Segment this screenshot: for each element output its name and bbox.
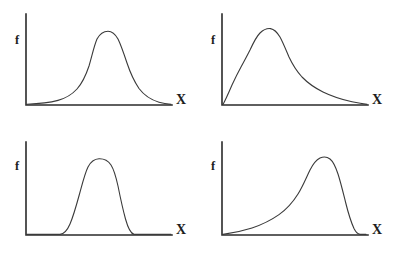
panel-bottom-right: f X [211,142,382,237]
curve-bottom-right-left-skewed [223,157,366,234]
y-axis-label-bottom-left: f [15,159,20,173]
curve-top-left-symmetric [27,31,171,104]
axis-top-right [222,14,368,105]
y-axis-label-bottom-right: f [211,159,216,173]
panel-top-right: f X [211,14,382,107]
x-axis-label-bottom-left: X [176,222,186,237]
x-axis-label-bottom-right: X [372,222,382,237]
four-panel-density-plot: f X f X f X f X [0,0,393,256]
axis-bottom-left [26,142,172,235]
panel-top-left: f X [15,14,186,107]
y-axis-label-top-left: f [15,33,20,47]
distribution-shapes-figure: f X f X f X f X [0,0,393,256]
axis-bottom-right [222,142,368,235]
axis-top-left [26,14,172,105]
panel-bottom-left: f X [15,142,186,237]
curve-top-right-right-skewed [223,29,367,105]
x-axis-label-top-left: X [176,92,186,107]
x-axis-label-top-right: X [372,92,382,107]
curve-bottom-left-bounded [27,159,171,235]
y-axis-label-top-right: f [211,33,216,47]
